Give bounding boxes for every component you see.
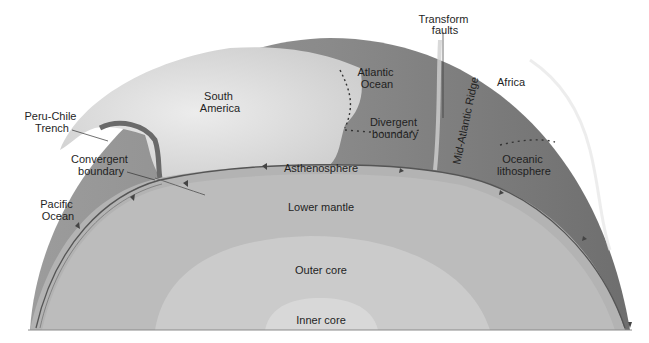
label-transform-faults: Transform faults <box>419 13 472 36</box>
label-asthenosphere: Asthenosphere <box>284 162 358 174</box>
label-lower-mantle: Lower mantle <box>288 201 354 213</box>
label-inner-core: Inner core <box>296 314 346 326</box>
label-divergent-boundary: Divergent boundary <box>370 116 420 140</box>
label-africa: Africa <box>497 76 526 88</box>
label-oceanic-lithosphere: Oceanic lithosphere <box>497 153 551 177</box>
label-atlantic-ocean: Atlantic Ocean <box>357 66 396 90</box>
label-outer-core: Outer core <box>295 264 347 276</box>
label-south-america: South America <box>200 90 241 114</box>
earth-diagram: Peru-Chile Trench Convergent boundary Pa… <box>0 0 649 343</box>
label-pacific-ocean: Pacific Ocean <box>40 198 75 222</box>
label-convergent-boundary: Convergent boundary <box>71 153 131 177</box>
